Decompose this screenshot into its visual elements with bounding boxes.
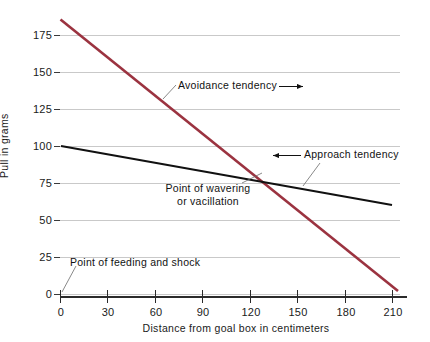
- xtick-0: [60, 290, 61, 303]
- xtick-label-90: 90: [188, 306, 218, 318]
- annotation-point-of-wavering: Point of wavering or vacillation: [156, 182, 260, 207]
- xtick-label-120: 120: [236, 306, 266, 318]
- ytick-label-150: 150: [18, 66, 52, 78]
- ytick-dash-100: [54, 146, 60, 147]
- xtick-120: [250, 290, 251, 303]
- xtick-label-180: 180: [331, 306, 361, 318]
- gridline-175: [60, 35, 400, 36]
- ytick-dash-25: [54, 257, 60, 258]
- annotation-avoidance-tendency: Avoidance tendency: [178, 79, 277, 92]
- ytick-label-100: 100: [18, 140, 52, 152]
- xtick-210: [392, 290, 393, 303]
- ytick-label-175: 175: [18, 29, 52, 41]
- ytick-dash-175: [54, 35, 60, 36]
- ytick-dash-150: [54, 72, 60, 73]
- ytick-dash-75: [54, 183, 60, 184]
- ytick-label-0: 0: [18, 288, 52, 300]
- annotation-wavering-line-1: Point of wavering: [156, 182, 260, 195]
- ytick-label-25: 25: [18, 251, 52, 263]
- ytick-dash-125: [54, 109, 60, 110]
- ytick-dash-50: [54, 220, 60, 221]
- xtick-label-30: 30: [93, 306, 123, 318]
- xtick-180: [345, 290, 346, 303]
- x-axis-title: Distance from goal box in centimeters: [0, 322, 430, 334]
- xtick-150: [297, 290, 298, 303]
- gridline-0: [60, 294, 400, 295]
- gridline-100: [60, 146, 400, 147]
- xtick-label-150: 150: [283, 306, 313, 318]
- gridline-50: [60, 220, 400, 221]
- xtick-label-60: 60: [141, 306, 171, 318]
- xtick-label-210: 210: [378, 306, 408, 318]
- ytick-label-50: 50: [18, 214, 52, 226]
- gridline-150: [60, 72, 400, 73]
- x-axis-line: [60, 296, 407, 298]
- xtick-label-0: 0: [46, 306, 76, 318]
- xtick-30: [107, 290, 108, 303]
- gridline-125: [60, 109, 400, 110]
- ytick-label-125: 125: [18, 103, 52, 115]
- ytick-label-75: 75: [18, 177, 52, 189]
- chart-figure: 175 150 125 100 75 50 25 0 Pull in grams…: [0, 0, 430, 342]
- xtick-60: [155, 290, 156, 303]
- annotation-wavering-line-2: or vacillation: [156, 195, 260, 208]
- y-axis-title: Pull in grams: [0, 78, 10, 178]
- annotation-point-of-feeding-and-shock: Point of feeding and shock: [70, 256, 200, 269]
- annotation-approach-tendency: Approach tendency: [304, 148, 399, 161]
- xtick-90: [202, 290, 203, 303]
